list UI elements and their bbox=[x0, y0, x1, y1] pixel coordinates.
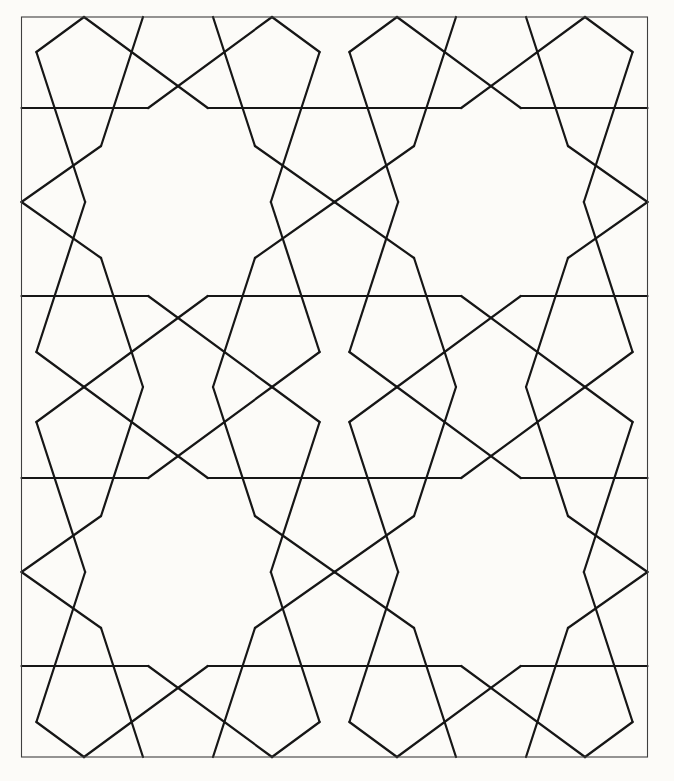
paper-background bbox=[0, 0, 674, 781]
geometric-pattern-figure bbox=[0, 0, 674, 781]
book-page bbox=[0, 0, 674, 781]
